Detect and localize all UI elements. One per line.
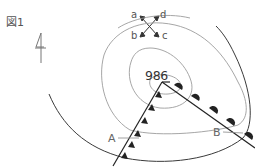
direction-label-d: d — [160, 10, 166, 20]
outer-curves — [49, 26, 250, 161]
direction-label-c: c — [162, 31, 168, 41]
cold-front — [113, 82, 162, 166]
warm-front — [162, 82, 255, 148]
direction-label-b: b — [131, 31, 137, 41]
direction-cross-icon — [140, 16, 159, 37]
north-arrow-icon — [35, 33, 46, 63]
point-label-a: A — [108, 133, 116, 144]
isobars — [102, 15, 247, 133]
weather-map-drawing — [0, 0, 255, 167]
figure-label: 図1 — [6, 17, 24, 28]
central-pressure-label: 986 — [145, 70, 168, 83]
direction-label-a: a — [131, 10, 137, 20]
point-label-b: B — [213, 127, 221, 138]
weather-map-figure: 図1 986 a d b c A B — [0, 0, 255, 167]
